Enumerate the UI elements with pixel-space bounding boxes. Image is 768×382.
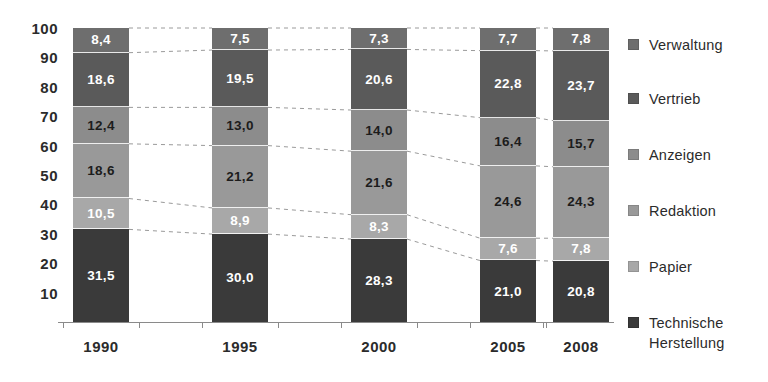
x-axis-tick (470, 323, 471, 328)
connector-line (129, 144, 212, 146)
bar-segment-technische-herstellung[interactable]: 28,3 (351, 239, 407, 322)
connector-line (407, 49, 480, 50)
connector-line (536, 118, 553, 121)
bar-segment-papier[interactable]: 8,3 (351, 215, 407, 239)
segment-value-label: 8,9 (230, 213, 250, 228)
connector-line (268, 234, 351, 239)
connector-line (407, 110, 480, 118)
bar-2008[interactable]: 7,823,715,724,37,820,8 (553, 28, 609, 322)
legend-label: Technische Herstellung (649, 314, 725, 353)
bar-segment-redaktion[interactable]: 21,2 (212, 146, 268, 208)
bar-2000[interactable]: 7,320,614,021,68,328,3 (351, 28, 407, 322)
bar-segment-redaktion[interactable]: 18,6 (73, 144, 129, 199)
x-axis-tick (341, 323, 342, 328)
bar-segment-papier[interactable]: 7,6 (480, 238, 536, 260)
segment-value-label: 8,4 (91, 32, 111, 47)
segment-value-label: 18,6 (87, 72, 114, 87)
connector-line (536, 166, 553, 167)
bar-segment-verwaltung[interactable]: 7,8 (553, 28, 609, 51)
connector-line (268, 107, 351, 110)
bar-segment-vertrieb[interactable]: 18,6 (73, 53, 129, 108)
y-axis-tick-label: 40 (22, 196, 58, 213)
bar-segment-anzeigen[interactable]: 16,4 (480, 118, 536, 166)
legend-label: Papier (649, 258, 692, 278)
y-axis-tick-label: 10 (22, 284, 58, 301)
bar-segment-technische-herstellung[interactable]: 20,8 (553, 261, 609, 322)
x-axis-tick (546, 323, 547, 328)
segment-value-label: 24,3 (567, 194, 594, 209)
segment-value-label: 24,6 (494, 194, 521, 209)
connector-line (536, 261, 553, 262)
legend-label: Verwaltung (649, 36, 723, 56)
y-axis-tick-label: 100 (22, 20, 58, 37)
bar-2005[interactable]: 7,722,816,424,67,621,0 (480, 28, 536, 322)
legend-label: Anzeigen (649, 146, 711, 166)
segment-value-label: 23,7 (567, 78, 594, 93)
bar-segment-papier[interactable]: 8,9 (212, 208, 268, 234)
y-axis-tick-label: 60 (22, 137, 58, 154)
bar-segment-verwaltung[interactable]: 8,4 (73, 28, 129, 53)
legend-item-vertrieb[interactable]: Vertrieb (628, 90, 701, 110)
connector-line (268, 49, 351, 50)
bar-segment-vertrieb[interactable]: 22,8 (480, 51, 536, 118)
legend-label: Vertrieb (649, 90, 701, 110)
segment-value-label: 7,8 (571, 241, 591, 256)
legend-item-verwaltung[interactable]: Verwaltung (628, 36, 723, 56)
x-axis-tick (417, 323, 418, 328)
segment-value-label: 18,6 (87, 163, 114, 178)
segment-value-label: 12,4 (87, 118, 114, 133)
bar-segment-verwaltung[interactable]: 7,3 (351, 28, 407, 49)
legend-label: Redaktion (649, 202, 716, 222)
connector-line (407, 215, 480, 239)
legend-item-papier[interactable]: Papier (628, 258, 692, 278)
legend-item-redaktion[interactable]: Redaktion (628, 202, 716, 222)
bar-segment-technische-herstellung[interactable]: 30,0 (212, 234, 268, 322)
y-axis-tick-label: 20 (22, 255, 58, 272)
x-axis-tick (278, 323, 279, 328)
segment-value-label: 14,0 (365, 123, 392, 138)
x-axis-tick (63, 323, 64, 328)
segment-value-label: 20,8 (567, 284, 594, 299)
segment-value-label: 15,7 (567, 136, 594, 151)
connector-line (129, 50, 212, 53)
bar-1990[interactable]: 8,418,612,418,610,531,5 (73, 28, 129, 322)
bar-1995[interactable]: 7,519,513,021,28,930,0 (212, 28, 268, 322)
bar-segment-technische-herstellung[interactable]: 31,5 (73, 229, 129, 322)
legend-swatch-icon (628, 261, 639, 272)
y-axis: 100908070605040302010 (14, 0, 58, 382)
y-axis-tick-label: 50 (22, 167, 58, 184)
legend-swatch-icon (628, 317, 639, 328)
bar-segment-verwaltung[interactable]: 7,7 (480, 28, 536, 51)
bar-segment-vertrieb[interactable]: 23,7 (553, 51, 609, 121)
legend-item-anzeigen[interactable]: Anzeigen (628, 146, 711, 166)
segment-value-label: 16,4 (494, 134, 521, 149)
bar-segment-vertrieb[interactable]: 20,6 (351, 49, 407, 110)
bar-segment-anzeigen[interactable]: 15,7 (553, 121, 609, 167)
segment-value-label: 7,5 (230, 31, 250, 46)
x-axis-tick-label: 1990 (83, 338, 118, 355)
y-axis-tick-label: 30 (22, 225, 58, 242)
segment-value-label: 8,3 (369, 219, 389, 234)
segment-value-label: 19,5 (226, 71, 253, 86)
bar-segment-technische-herstellung[interactable]: 21,0 (480, 260, 536, 322)
bar-segment-anzeigen[interactable]: 13,0 (212, 107, 268, 145)
bar-segment-redaktion[interactable]: 24,6 (480, 166, 536, 238)
y-axis-tick-label: 90 (22, 49, 58, 66)
x-axis-tick-label: 2008 (563, 338, 598, 355)
bar-segment-vertrieb[interactable]: 19,5 (212, 50, 268, 107)
bar-segment-papier[interactable]: 7,8 (553, 238, 609, 261)
bar-segment-anzeigen[interactable]: 14,0 (351, 110, 407, 151)
segment-value-label: 7,8 (571, 31, 591, 46)
y-axis-tick-label: 70 (22, 108, 58, 125)
segment-value-label: 31,5 (87, 268, 114, 283)
bar-segment-redaktion[interactable]: 24,3 (553, 167, 609, 238)
bar-segment-verwaltung[interactable]: 7,5 (212, 28, 268, 50)
bar-segment-anzeigen[interactable]: 12,4 (73, 107, 129, 143)
connector-line (407, 239, 480, 260)
segment-value-label: 10,5 (87, 206, 114, 221)
legend-item-technische-herstellung[interactable]: Technische Herstellung (628, 314, 725, 353)
segment-value-label: 7,6 (498, 241, 518, 256)
stacked-bar-chart: 100908070605040302010 8,418,612,418,610,… (0, 0, 768, 382)
bar-segment-papier[interactable]: 10,5 (73, 198, 129, 229)
bar-segment-redaktion[interactable]: 21,6 (351, 151, 407, 214)
